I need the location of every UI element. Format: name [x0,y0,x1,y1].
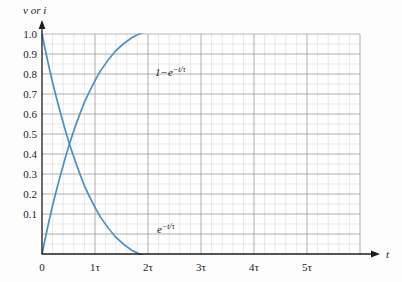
y-tick-label: 0.3 [23,168,37,180]
decay-label-exponent: −t/τ [162,222,176,231]
rising-label-exponent: −t/τ [173,65,187,74]
exponential-curves-chart: 1.0 0.9 0.8 0.7 0.6 0.5 0.4 0.3 0.2 0.1 … [0,0,402,282]
x-tick-label: 1τ [90,261,101,273]
x-tick-label: 2τ [143,261,154,273]
x-tick-label: 4τ [249,261,260,273]
chart-figure: 1.0 0.9 0.8 0.7 0.6 0.5 0.4 0.3 0.2 0.1 … [0,0,402,282]
y-tick-label: 0.2 [23,188,37,200]
top-mask [0,0,402,33]
y-tick-label: 0.6 [23,108,37,120]
y-tick-label: 0.4 [23,148,37,160]
y-axis-title: v or i [23,4,46,16]
y-tick-label: 0.9 [23,48,37,60]
x-tick-label-origin: 0 [39,261,45,273]
y-tick-label: 0.1 [23,208,37,220]
y-tick-label: 0.5 [23,128,37,140]
rising-label-base: 1−e [155,66,173,78]
y-tick-label: 0.7 [23,88,37,100]
y-tick-label: 0.8 [23,68,37,80]
x-tick-label: 5τ [302,261,313,273]
x-tick-label: 3τ [196,261,207,273]
y-tick-label: 1.0 [23,28,37,40]
